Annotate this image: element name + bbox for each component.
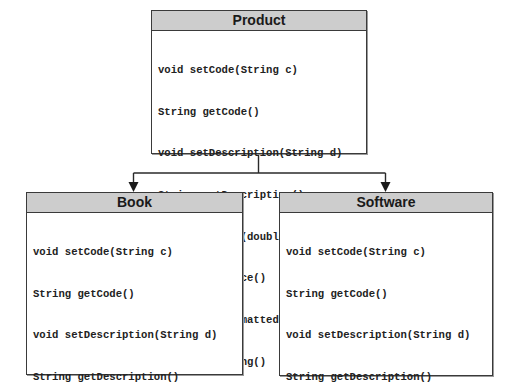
method: String getDescription() (33, 371, 242, 383)
method: String getCode() (158, 106, 366, 120)
method: void setDescription(String d) (158, 147, 366, 161)
arrow-down-icon (129, 182, 139, 192)
method: void setCode(String c) (158, 64, 366, 78)
method: String getCode() (33, 288, 242, 302)
method-list-software: void setCode(String c) String getCode() … (280, 213, 492, 383)
class-name-software: Software (280, 193, 492, 213)
method: String getDescription() (286, 371, 492, 383)
method: void setDescription(String d) (33, 329, 242, 343)
class-box-software: Software void setCode(String c) String g… (279, 192, 493, 376)
method-list-book: void setCode(String c) String getCode() … (27, 213, 242, 383)
class-name-product: Product (152, 11, 366, 31)
method: String getCode() (286, 288, 492, 302)
arrow-down-icon (381, 182, 391, 192)
method: void setDescription(String d) (286, 329, 492, 343)
method: void setCode(String c) (33, 246, 242, 260)
class-name-book: Book (27, 193, 242, 213)
method: void setCode(String c) (286, 246, 492, 260)
class-box-book: Book void setCode(String c) String getCo… (26, 192, 243, 375)
class-box-product: Product void setCode(String c) String ge… (151, 10, 367, 154)
